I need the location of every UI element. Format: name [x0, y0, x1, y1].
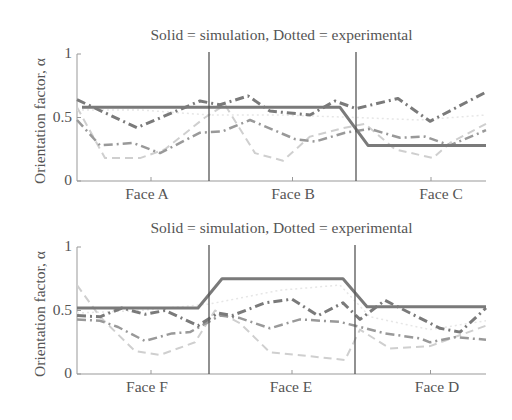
series-experimental-2	[77, 120, 486, 153]
series-simulation	[77, 279, 486, 308]
bottom-plot-area	[0, 193, 512, 403]
series-experimental-1	[77, 299, 486, 332]
bottom-chart-panel: Solid = simulation, Dotted = experimenta…	[0, 193, 512, 403]
series-experimental-3	[77, 285, 486, 360]
top-chart-panel: Solid = simulation, Dotted = experimenta…	[0, 0, 512, 210]
top-plot-area	[0, 0, 512, 210]
